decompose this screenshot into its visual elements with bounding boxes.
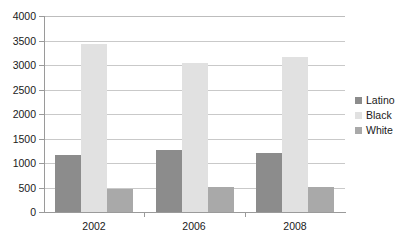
y-axis-label: 0 [30, 207, 36, 218]
x-axis-label-2006: 2006 [144, 221, 244, 232]
y-axis-label: 2500 [13, 85, 36, 96]
legend-item-latino: Latino [355, 93, 395, 108]
x-axis-label-2002: 2002 [44, 221, 144, 232]
legend-swatch-latino-icon [355, 97, 362, 104]
x-axis-tick [245, 212, 246, 217]
legend-swatch-black-icon [355, 112, 362, 119]
y-axis-label: 1500 [13, 134, 36, 145]
bar-white-2002 [107, 189, 133, 212]
bar-latino-2008 [256, 153, 282, 212]
y-axis-label: 2000 [13, 109, 36, 120]
x-axis-line [44, 212, 346, 213]
chart-legend: LatinoBlackWhite [355, 93, 395, 138]
bar-white-2006 [208, 187, 234, 212]
x-axis-tick [144, 212, 145, 217]
bar-black-2002 [81, 44, 107, 212]
x-axis-label-2008: 2008 [245, 221, 345, 232]
bar-black-2008 [282, 57, 308, 212]
legend-label: Black [366, 110, 392, 121]
legend-label: White [366, 125, 393, 136]
y-axis-label: 3000 [13, 60, 36, 71]
bars-layer [44, 16, 345, 212]
bar-chart: 05001000150020002500300035004000 2002200… [0, 0, 408, 246]
y-axis-label: 1000 [13, 158, 36, 169]
bar-latino-2006 [156, 150, 182, 212]
legend-item-black: Black [355, 108, 395, 123]
y-axis-label: 3500 [13, 36, 36, 47]
bar-latino-2002 [55, 155, 81, 212]
bar-black-2006 [182, 63, 208, 212]
legend-item-white: White [355, 123, 395, 138]
y-axis-label: 4000 [13, 11, 36, 22]
legend-swatch-white-icon [355, 127, 362, 134]
y-axis-label: 500 [18, 183, 36, 194]
bar-white-2008 [308, 187, 334, 212]
legend-label: Latino [366, 95, 395, 106]
